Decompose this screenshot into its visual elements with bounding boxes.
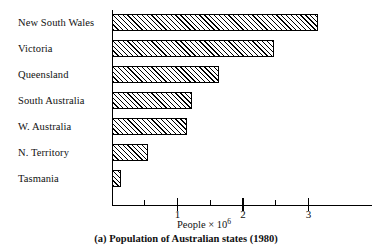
bar-w-australia — [112, 118, 187, 135]
x-axis-title-exponent: 6 — [227, 217, 231, 226]
y-axis-line — [112, 10, 113, 206]
category-label-victoria: Victoria — [18, 43, 53, 54]
category-label-n-territory: N. Territory — [18, 147, 69, 158]
figure: New South Wales Victoria Queensland Sout… — [0, 0, 372, 249]
figure-caption: (a) Population of Australian states (198… — [0, 233, 372, 245]
category-label-queensland: Queensland — [18, 69, 69, 80]
bar-south-australia — [112, 92, 192, 109]
plot-area: New South Wales Victoria Queensland Sout… — [0, 0, 372, 212]
x-axis-title: People × 106 — [0, 219, 372, 231]
category-label-tasmania: Tasmania — [18, 173, 59, 184]
bar-n-territory — [112, 144, 148, 161]
bar-new-south-wales — [112, 14, 318, 31]
x-axis-minor-tick — [210, 200, 211, 205]
category-label-new-south-wales: New South Wales — [18, 17, 94, 28]
x-axis-minor-tick — [144, 200, 145, 205]
category-label-w-australia: W. Australia — [18, 121, 71, 132]
x-axis-minor-tick — [275, 200, 276, 205]
bar-victoria — [112, 40, 274, 57]
x-axis-title-text: People × 10 — [177, 219, 227, 230]
category-label-south-australia: South Australia — [18, 95, 85, 106]
bar-queensland — [112, 66, 219, 83]
